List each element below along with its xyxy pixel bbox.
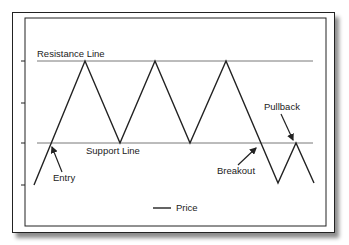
resistance-label: Resistance Line — [37, 49, 105, 59]
entry-arrow-icon — [52, 147, 62, 172]
pullback-arrow-icon — [281, 114, 293, 140]
breakout-label: Breakout — [217, 166, 255, 176]
pullback-label: Pullback — [264, 102, 300, 112]
diagram-canvas — [0, 0, 349, 245]
support-label: Support Line — [86, 146, 140, 156]
price-line — [34, 61, 314, 185]
y-axis-ticks — [21, 61, 25, 185]
legend-price-label: Price — [176, 203, 198, 213]
entry-label: Entry — [53, 173, 75, 183]
breakout-arrow-icon — [238, 148, 256, 165]
